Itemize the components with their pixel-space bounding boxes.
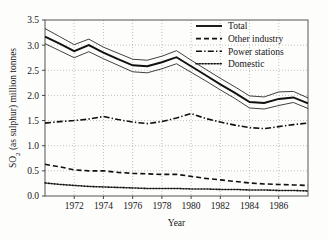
x-tick-label: 1972 [65,201,84,211]
x-tick-label: 1986 [269,201,288,211]
y-tick-label: 3.5 [27,15,39,25]
x-tick-label: 1980 [182,201,201,211]
y-tick-label: 0.0 [27,191,39,201]
y-tick-label: 2.0 [27,91,39,101]
chart-figure: 19721974197619781980198219841986 0.00.51… [0,0,328,240]
legend-label-power-stations: Power stations [228,47,284,57]
y-tick-label: 1.0 [27,141,39,151]
x-tick-label: 1974 [94,201,113,211]
x-axis-title: Year [168,218,186,228]
y-tick-label: 0.5 [27,166,39,176]
y-tick-label: 2.5 [27,66,39,76]
y-tick-label: 1.5 [27,116,39,126]
legend-label-total: Total [228,21,248,31]
x-tick-label: 1984 [240,201,259,211]
x-tick-label: 1978 [152,201,171,211]
legend-label-other-industry: Other industry [228,34,283,44]
y-tick-label: 3.0 [27,41,39,51]
x-tick-label: 1982 [211,201,230,211]
x-tick-label: 1976 [123,201,142,211]
so2-emissions-line-chart: 19721974197619781980198219841986 0.00.51… [0,0,328,240]
legend-label-domestic: Domestic [228,59,264,69]
